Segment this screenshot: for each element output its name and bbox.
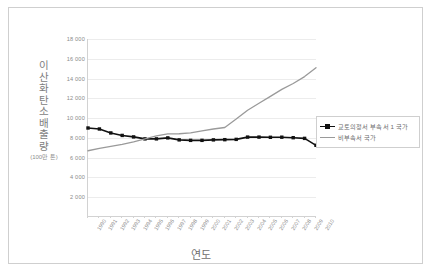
x-axis-tick-mark: [212, 216, 213, 218]
chart-legend: 교토의정서 부속서 1 국가비부속서 국가: [316, 116, 420, 148]
legend-item-label: 교토의정서 부속서 1 국가: [338, 122, 408, 131]
legend-item[interactable]: 교토의정서 부속서 1 국가: [320, 121, 415, 132]
series-marker: [223, 138, 226, 141]
x-axis-tick-mark: [269, 216, 270, 218]
y-axis-tick-label: 2 000: [51, 194, 85, 200]
y-axis-tick-label: 18 000: [51, 36, 85, 42]
x-axis-tick-mark: [121, 216, 122, 218]
x-axis-tick-label: 1997: [175, 218, 186, 231]
y-axis-tick-label: 10 000: [51, 115, 85, 121]
x-axis-tick-mark: [235, 216, 236, 218]
y-axis-tick-label: 8 000: [51, 135, 85, 141]
x-axis-tick-label: 2010: [324, 218, 335, 231]
y-axis-tick-label: 16 000: [51, 56, 85, 62]
x-axis-tick-mark: [167, 216, 168, 218]
legend-item[interactable]: 비부속서 국가: [320, 132, 415, 143]
series-marker: [303, 137, 306, 140]
x-axis-tick-label: 2002: [232, 218, 243, 231]
x-axis-tick-mark: [201, 216, 202, 218]
x-axis-tick-label: 1991: [107, 218, 118, 231]
x-axis-tick-label: 1999: [198, 218, 209, 231]
x-axis-tick-label: 2000: [210, 218, 221, 231]
x-axis-tick-mark: [304, 216, 305, 218]
series-marker: [246, 135, 249, 138]
series-marker: [109, 131, 112, 134]
x-axis-tick-label: 2001: [221, 218, 232, 231]
x-axis-tick-label: 2005: [267, 218, 278, 231]
x-axis-tick-mark: [178, 216, 179, 218]
y-axis-tick-labels: 18 00016 00014 00012 00010 0008 0006 000…: [49, 39, 85, 217]
series-marker: [269, 136, 272, 139]
series-marker: [178, 138, 181, 141]
x-axis-tick-label: 1993: [130, 218, 141, 231]
x-axis-tick-label: 2003: [244, 218, 255, 231]
series-marker: [212, 138, 215, 141]
x-axis-tick-labels: 1990199119921993199419951996199719981999…: [87, 218, 315, 248]
series-marker: [98, 127, 101, 130]
x-axis-tick-mark: [155, 216, 156, 218]
series-marker: [155, 137, 158, 140]
series-marker: [280, 136, 283, 139]
chart-frame: 이산화탄소 배출량 (100만 톤) 18 00016 00014 00012 …: [8, 7, 423, 264]
x-axis-tick-label: 1996: [164, 218, 175, 231]
y-axis-tick-label: 12 000: [51, 95, 85, 101]
x-axis-tick-label: 1994: [141, 218, 152, 231]
legend-item-label: 비부속서 국가: [338, 133, 376, 142]
x-axis-tick-mark: [247, 216, 248, 218]
series-marker: [132, 135, 135, 138]
y-axis-tick-label: 6 000: [51, 155, 85, 161]
x-axis-tick-mark: [144, 216, 145, 218]
series-layer: [88, 39, 316, 217]
x-axis-tick-mark: [292, 216, 293, 218]
x-axis-tick-label: 1990: [96, 218, 107, 231]
series-marker: [166, 136, 169, 139]
x-axis-tick-label: 2006: [278, 218, 289, 231]
series-marker: [86, 126, 89, 129]
plot-area: [87, 39, 316, 217]
series-marker: [292, 136, 295, 139]
x-axis-tick-label: 2004: [255, 218, 266, 231]
y-axis-tick-label: 4 000: [51, 174, 85, 180]
legend-line-marker-icon: [320, 133, 335, 142]
x-axis-tick-mark: [87, 216, 88, 218]
series-marker: [121, 134, 124, 137]
x-axis-tick-label: 2007: [289, 218, 300, 231]
x-axis-tick-mark: [258, 216, 259, 218]
series-marker: [257, 135, 260, 138]
chart-page: 이산화탄소 배출량 (100만 톤) 18 00016 00014 00012 …: [0, 0, 433, 274]
x-axis-tick-label: 1992: [118, 218, 129, 231]
y-axis-tick-label: 14 000: [51, 76, 85, 82]
series-marker: [189, 139, 192, 142]
x-axis-tick-mark: [98, 216, 99, 218]
x-axis-title: 연도: [87, 246, 315, 262]
x-axis-tick-label: 2009: [312, 218, 323, 231]
x-axis-tick-label: 1998: [187, 218, 198, 231]
x-axis-tick-mark: [281, 216, 282, 218]
x-axis-tick-label: 1995: [153, 218, 164, 231]
x-axis-tick-mark: [110, 216, 111, 218]
x-axis-tick-mark: [190, 216, 191, 218]
x-axis-tick-mark: [133, 216, 134, 218]
x-axis-tick-mark: [224, 216, 225, 218]
x-axis-tick-label: 2008: [301, 218, 312, 231]
series-marker: [235, 138, 238, 141]
x-axis-tick-mark: [315, 216, 316, 218]
legend-square-marker-icon: [320, 122, 335, 131]
series-marker: [200, 139, 203, 142]
